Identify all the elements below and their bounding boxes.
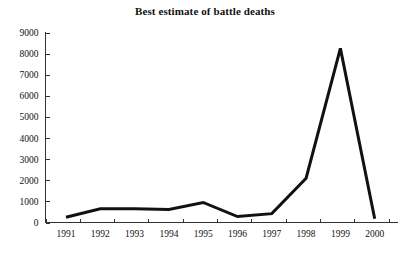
- battle-deaths-line: [66, 48, 375, 218]
- x-axis-tick-labels: 1991199219931994199519961997199819992000: [57, 229, 385, 239]
- y-tick-label: 6000: [20, 91, 39, 101]
- chart-figure: Best estimate of battle deaths 010002000…: [0, 0, 410, 258]
- y-tick-label: 4000: [20, 134, 39, 144]
- x-tick-label: 1996: [228, 229, 247, 239]
- x-tick-label: 1991: [57, 229, 76, 239]
- x-tick-label: 1995: [194, 229, 213, 239]
- y-tick-label: 1000: [20, 197, 39, 207]
- x-tick-label: 1998: [297, 229, 316, 239]
- line-chart-plot: 0100020003000400050006000700080009000 19…: [0, 0, 410, 258]
- y-tick-label: 8000: [20, 49, 39, 59]
- x-tick-label: 1997: [262, 229, 281, 239]
- y-tick-label: 5000: [20, 112, 39, 122]
- x-tick-label: 1993: [125, 229, 144, 239]
- x-tick-label: 1992: [91, 229, 110, 239]
- x-tick-label: 1994: [159, 229, 178, 239]
- y-axis-tick-labels: 0100020003000400050006000700080009000: [20, 28, 39, 228]
- y-tick-label: 7000: [20, 70, 39, 80]
- y-tick-label: 2000: [20, 176, 39, 186]
- x-tick-label: 2000: [365, 229, 384, 239]
- y-tick-label: 0: [34, 218, 39, 228]
- x-axis-tick-marks: [47, 219, 390, 223]
- y-tick-label: 9000: [20, 28, 39, 38]
- y-axis-tick-marks: [46, 34, 50, 224]
- x-tick-label: 1999: [331, 229, 350, 239]
- y-tick-label: 3000: [20, 155, 39, 165]
